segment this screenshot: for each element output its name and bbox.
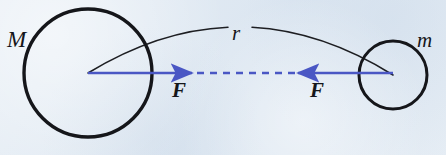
force-diagram-figure: M m r F F — [0, 0, 446, 155]
diagram-canvas — [0, 0, 446, 155]
separation-arc-right-segment — [252, 27, 393, 75]
separation-label: r — [232, 23, 240, 44]
force-label-right: F — [310, 80, 324, 101]
large-mass-label: M — [7, 28, 26, 51]
force-label-left: F — [172, 80, 186, 101]
small-mass-label: m — [417, 30, 432, 51]
separation-arc — [88, 27, 393, 75]
separation-arc-left-segment — [88, 27, 228, 73]
